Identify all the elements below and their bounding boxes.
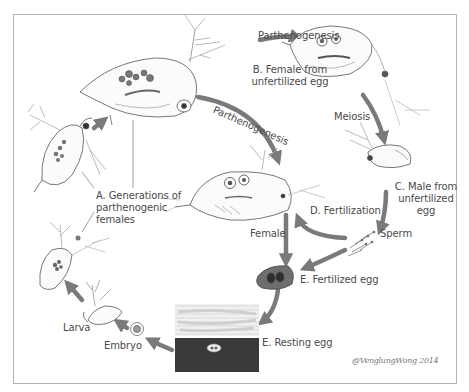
- label-embryo: Embryo: [104, 340, 142, 352]
- arrow-fertilization: [298, 218, 345, 238]
- sperm-cluster: [348, 231, 375, 256]
- label-female: Female: [250, 228, 286, 240]
- label-stage-c-line3: egg: [394, 205, 458, 217]
- arrow-male-to-sperm: [380, 192, 386, 230]
- artist-signature: @VenglungWong 2014: [352, 356, 438, 365]
- arrow-embryo-to-larva: [118, 322, 127, 328]
- label-stage-b-line1: B. Female from: [245, 64, 335, 76]
- daphnia-c-male: [345, 122, 411, 168]
- embryo: [131, 323, 144, 336]
- label-parthenogenesis-top: Parthenogenesis: [258, 30, 339, 42]
- label-stage-e-fertilized: E. Fertilized egg: [300, 274, 378, 286]
- label-stage-c-line2: unfertilized: [394, 193, 458, 205]
- label-stage-a-line2: parthenogenic: [96, 202, 181, 214]
- daphnia-top-parthenogenic: [80, 15, 225, 188]
- label-larva: Larva: [63, 322, 90, 334]
- label-sperm: Sperm: [380, 228, 412, 240]
- daphnia-d-female: [160, 145, 325, 220]
- daphnia-a-left: [28, 104, 106, 232]
- arrow-egg-to-resting: [262, 290, 278, 322]
- label-stage-e-resting: E. Resting egg: [262, 337, 333, 349]
- arrow-resting-to-embryo: [150, 340, 172, 350]
- fertilized-egg: [257, 266, 294, 290]
- label-stage-b-line2: unfertilized egg: [245, 76, 335, 88]
- label-stage-c-line1: C. Male from: [394, 181, 458, 193]
- label-stage-d: D. Fertilization: [310, 205, 381, 217]
- arrow-larva-to-female: [68, 284, 82, 300]
- label-stage-a: A. Generations of parthenogenic females: [96, 190, 181, 226]
- arrow-sperm-to-egg: [305, 250, 345, 268]
- larva: [84, 280, 123, 325]
- daphnia-left-female: [40, 222, 110, 289]
- arrow-a-to-top-female: [94, 120, 104, 128]
- resting-egg-sediment: [175, 304, 259, 372]
- label-stage-b: B. Female from unfertilized egg: [245, 64, 335, 88]
- label-stage-c: C. Male from unfertilized egg: [394, 181, 458, 217]
- label-stage-a-line1: A. Generations of: [96, 190, 181, 202]
- label-meiosis: Meiosis: [334, 111, 370, 123]
- label-stage-a-line3: females: [96, 214, 181, 226]
